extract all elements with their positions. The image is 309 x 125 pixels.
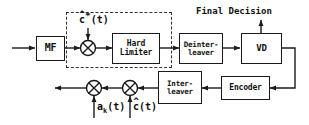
block-mf-label: MF	[45, 43, 57, 54]
block-hard-limiter-line2: Limiter	[120, 49, 152, 57]
block-interleaver: Inter- leaver	[158, 71, 202, 104]
label-c-star-hat: ^c*(t)	[79, 15, 109, 25]
block-vd-label: VD	[256, 44, 266, 53]
c-star-hat-symbol: ^c	[79, 15, 85, 25]
label-a-k: ak(t)	[97, 102, 125, 112]
block-deinterleaver: Deinter- leaver	[179, 33, 223, 64]
block-deinterleaver-line2: leaver	[188, 49, 214, 57]
block-vd: VD	[241, 33, 282, 64]
c-hat-symbol: ^c	[133, 102, 139, 112]
block-interleaver-line2: leaver	[167, 88, 193, 96]
block-hard-limiter: Hard Limiter	[112, 33, 160, 64]
block-diagram: MF Hard Limiter Deinter- leaver VD Encod…	[0, 0, 309, 125]
label-final-decision: Final Decision	[196, 7, 272, 16]
block-encoder: Encoder	[221, 76, 270, 100]
block-mf: MF	[36, 36, 65, 61]
label-c-hat: ^c(t)	[133, 102, 157, 112]
block-encoder-label: Encoder	[229, 84, 261, 92]
